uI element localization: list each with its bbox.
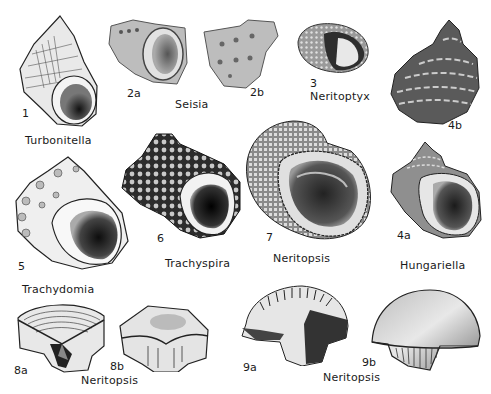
figure-number-6: 6 (157, 233, 164, 245)
shell-illustration-hungariella-4a (383, 140, 483, 240)
shell-illustration-seisia-2a (105, 18, 190, 88)
figure-number-2a: 2a (127, 88, 141, 100)
genus-label-neritopsis-7: Neritopsis (273, 253, 330, 265)
operculum-illustration-neritopsis-8b (118, 302, 210, 372)
shell-illustration-neritoptyx (294, 20, 372, 75)
operculum-illustration-neritopsis-9a (240, 284, 352, 366)
figure-number-3: 3 (310, 78, 317, 90)
shell-illustration-neritopsis-7 (243, 117, 375, 242)
shell-illustration-seisia-2b (200, 18, 280, 90)
figure-number-9a: 9a (243, 362, 257, 374)
figure-number-9b: 9b (362, 357, 376, 369)
genus-label-neritopsis-9: Neritopsis (323, 372, 380, 384)
figure-number-4a: 4a (397, 230, 411, 242)
operculum-illustration-neritopsis-8a (14, 298, 106, 374)
genus-label-seisia: Seisia (175, 99, 209, 111)
operculum-illustration-neritopsis-9b (368, 286, 482, 374)
genus-label-neritoptyx: Neritoptyx (310, 91, 370, 103)
figure-number-8a: 8a (14, 365, 28, 377)
fossil-plate: 1 Turbonitella 2a 2b Seisia (0, 0, 491, 394)
figure-number-1: 1 (22, 108, 29, 120)
shell-illustration-trachyspira (120, 130, 244, 240)
figure-number-7: 7 (266, 232, 273, 244)
genus-label-hungariella: Hungariella (400, 260, 465, 272)
shell-illustration-trachydomia (12, 155, 130, 270)
genus-label-neritopsis-8: Neritopsis (81, 375, 138, 387)
genus-label-trachydomia: Trachydomia (22, 284, 94, 296)
figure-number-8b: 8b (110, 361, 124, 373)
figure-number-5: 5 (18, 261, 25, 273)
genus-label-trachyspira: Trachyspira (165, 258, 230, 270)
genus-label-turbonitella: Turbonitella (25, 135, 92, 147)
shell-illustration-hungariella-4b (385, 18, 481, 126)
figure-number-4b: 4b (448, 120, 462, 132)
figure-number-2b: 2b (250, 87, 264, 99)
